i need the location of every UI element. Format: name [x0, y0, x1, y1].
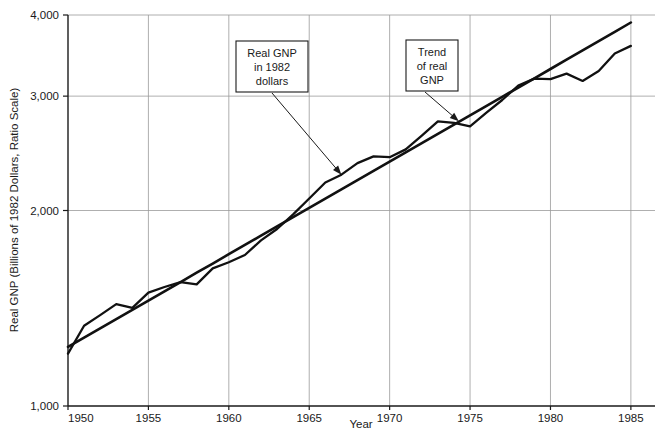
chart-background [0, 0, 666, 438]
trend-callout-line-2: of real [417, 60, 448, 72]
chart-canvas: 1,0002,0003,0004,000 1950195519601965197… [0, 0, 666, 438]
y-axis-tick-label: 3,000 [30, 90, 59, 102]
y-axis-tick-label: 4,000 [30, 9, 59, 21]
y-axis-title: Real GNP (Billions of 1982 Dollars, Rati… [8, 88, 20, 333]
y-axis-tick-label: 2,000 [30, 205, 59, 217]
y-axis-tick-label: 1,000 [30, 400, 59, 412]
real-gnp-callout-line-2: in 1982 [254, 61, 290, 73]
trend-callout-line-1: Trend [418, 46, 446, 58]
x-axis-tick-label: 1965 [296, 412, 322, 424]
real-gnp-callout-line-3: dollars [256, 75, 289, 87]
x-axis-tick-label: 1975 [457, 412, 483, 424]
x-axis-title: Year [349, 418, 372, 430]
x-axis-tick-label: 1955 [136, 412, 162, 424]
x-axis-tick-label: 1960 [216, 412, 242, 424]
x-axis-tick-label: 1980 [538, 412, 564, 424]
x-axis-tick-label: 1970 [377, 412, 403, 424]
trend-callout-line-3: GNP [420, 74, 444, 86]
x-axis-tick-label: 1985 [618, 412, 644, 424]
gnp-line-chart: 1,0002,0003,0004,000 1950195519601965197… [0, 0, 666, 438]
x-axis-tick-label: 1950 [68, 412, 94, 424]
real-gnp-callout-line-1: Real GNP [247, 47, 297, 59]
